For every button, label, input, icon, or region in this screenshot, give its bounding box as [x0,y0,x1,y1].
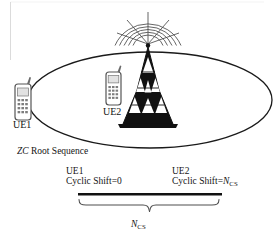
ue1-shift-annotation: UE1 Cyclic Shift=0 [66,166,122,187]
ue1-phone-icon [15,77,31,120]
ue1-shift-value-line: Cyclic Shift=0 [66,176,122,186]
ue2-shift-prefix: Cyclic Shift= [172,176,223,186]
ue2-device-label: UE2 [103,107,121,118]
ue1-shift-prefix: Cyclic Shift= [66,176,117,186]
ue1-device-label: UE1 [13,120,31,131]
diagram-vector-layer [0,0,279,237]
figure-root: UE1 UE2 ZC Root Sequence UE1 Cyclic Shif… [0,0,279,237]
ncs-span-brace [79,200,219,212]
zc-abbreviation: ZC [17,146,29,156]
zc-root-sequence-label: ZC Root Sequence [17,146,88,156]
ue2-shift-ue-label: UE2 [172,166,238,176]
ue2-shift-annotation: UE2 Cyclic Shift=NCS [172,166,238,187]
figure-frame [11,2,265,60]
ncs-brace-label: NCS [131,219,146,230]
ue1-shift-value: 0 [117,176,122,186]
ncs-subscript: CS [137,223,146,230]
ue1-shift-ue-label: UE1 [66,166,122,176]
zc-root-sequence-text: Root Sequence [29,146,89,156]
signal-arcs-icon [115,12,181,46]
ue2-phone-icon [106,66,121,106]
base-station-tower-icon [118,47,178,128]
ue2-shift-value-subscript: CS [229,180,238,187]
ue2-shift-value-line: Cyclic Shift=NCS [172,176,238,187]
